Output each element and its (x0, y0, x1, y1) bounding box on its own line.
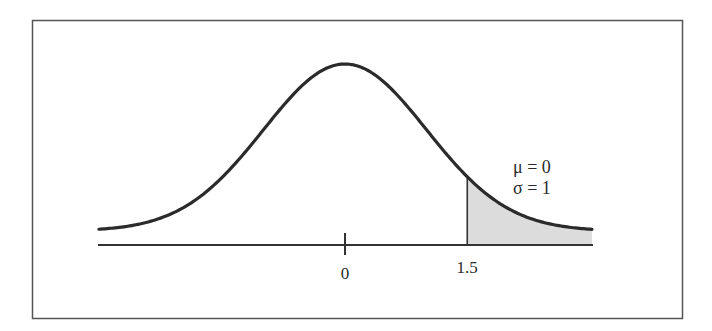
normal-curve-figure: 0 1.5 μ = 0 σ = 1 (0, 0, 712, 331)
normal-curve (99, 64, 592, 229)
tick-label-1-5: 1.5 (456, 258, 477, 277)
sigma-label: σ = 1 (513, 178, 551, 198)
tick-label-0: 0 (341, 264, 350, 283)
mu-label: μ = 0 (513, 157, 551, 177)
